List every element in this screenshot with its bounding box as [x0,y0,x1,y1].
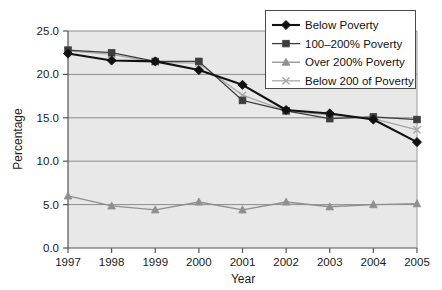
legend-item-label: Below Poverty [305,19,379,31]
y-axis-tick-labels: 0.05.010.015.020.025.0 [37,25,59,254]
x-axis-tick-label: 2004 [361,256,387,268]
legend-item-label: 100–200% Poverty [305,38,402,50]
legend: Below Poverty100–200% PovertyOver 200% P… [266,11,416,89]
marker-square [239,97,246,104]
x-axis-tick-label: 1998 [99,256,125,268]
x-axis-title: Year [231,272,255,286]
y-axis-tick-label: 25.0 [37,25,59,37]
x-axis-tick-label: 2000 [186,256,212,268]
x-axis-tick-label: 1997 [55,256,81,268]
y-axis-tick-label: 15.0 [37,112,59,124]
chart-figure: 0.05.010.015.020.025.0 19971998199920002… [0,0,442,290]
marker-square [196,58,203,65]
marker-square [283,40,290,47]
line-chart: 0.05.010.015.020.025.0 19971998199920002… [0,0,442,290]
marker-square [414,116,421,123]
legend-item-label: Below 200 of Poverty [305,75,414,87]
x-axis-tick-label: 2001 [230,256,256,268]
x-axis-tick-label: 2002 [273,256,299,268]
x-axis-tick-label: 2003 [317,256,343,268]
x-axis-tick-labels: 199719981999200020012002200320042005 [55,256,430,268]
y-axis-tick-label: 0.0 [43,242,59,254]
y-axis-tick-label: 5.0 [43,199,59,211]
y-axis-title: Percentage [11,108,25,170]
marker-square [108,49,115,56]
x-axis-tick-label: 1999 [142,256,168,268]
y-axis-tick-label: 10.0 [37,155,59,167]
legend-item-label: Over 200% Poverty [305,56,405,68]
x-axis-tick-label: 2005 [404,256,430,268]
y-axis-tick-label: 20.0 [37,68,59,80]
